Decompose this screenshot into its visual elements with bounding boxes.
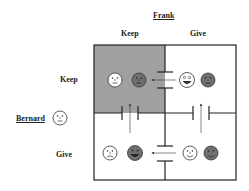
happy-face-dark-icon [204,146,218,160]
neutral-face-icon [108,73,122,87]
nash-equilibrium-cell [94,45,165,113]
sad-face-icon [103,146,117,160]
very-happy-face-dark-icon [128,146,143,161]
sad-face-dark-icon [201,73,215,87]
very-happy-face-icon [180,73,195,88]
payoff-matrix [0,0,249,191]
happy-face-icon [183,146,197,160]
bernard-face-icon [53,111,67,125]
neutral-face-dark-icon [132,73,146,87]
